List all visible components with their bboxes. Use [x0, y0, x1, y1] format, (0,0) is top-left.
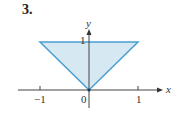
tick-label-xm1: −1	[34, 93, 46, 105]
origin-point	[88, 89, 91, 92]
x-axis-label: x	[165, 83, 171, 95]
x-axis-arrow-icon	[157, 88, 163, 93]
triangle-region-chart: −1 0 1 1 x y	[0, 0, 182, 129]
tick-label-y1: 1	[80, 34, 86, 46]
y-axis-label: y	[85, 17, 91, 29]
tick-label-x1: 1	[136, 93, 142, 105]
y-axis-arrow-icon	[87, 29, 92, 35]
tick-label-x0: 0	[81, 93, 87, 105]
